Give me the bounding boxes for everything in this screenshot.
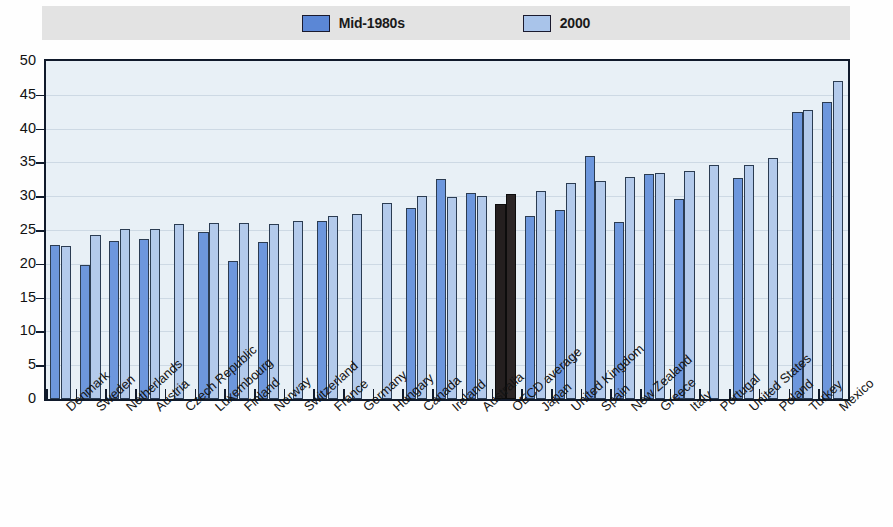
bar-mid1980s <box>436 179 446 399</box>
bar-2000 <box>447 197 457 399</box>
bar-mid1980s <box>495 204 505 399</box>
y-tick-label: 25 <box>4 221 36 237</box>
bar-2000 <box>417 196 427 399</box>
y-tick-mark <box>36 129 45 131</box>
bar-mid1980s <box>317 221 327 399</box>
y-tick-label: 45 <box>4 86 36 102</box>
bar-2000 <box>655 173 665 399</box>
y-tick-mark <box>36 95 45 97</box>
y-tick-label: 20 <box>4 255 36 271</box>
bar-mid1980s <box>50 245 60 399</box>
y-tick-label: 10 <box>4 322 36 338</box>
y-tick-label: 30 <box>4 187 36 203</box>
bar-mid1980s <box>198 232 208 399</box>
bar-mid1980s <box>406 208 416 399</box>
y-tick-label: 50 <box>4 52 36 68</box>
y-tick-label: 15 <box>4 289 36 305</box>
y-tick-label: 40 <box>4 120 36 136</box>
bar-2000 <box>293 221 303 399</box>
y-tick-mark <box>36 196 45 198</box>
bar-mid1980s <box>466 193 476 399</box>
bar-mid1980s <box>139 239 149 399</box>
bar-mid1980s <box>822 102 832 399</box>
bar-mid1980s <box>585 156 595 399</box>
bar-2000 <box>744 165 754 399</box>
bar-2000 <box>61 246 71 399</box>
y-tick-label: 35 <box>4 153 36 169</box>
bar-mid1980s <box>525 216 535 399</box>
y-tick-mark <box>36 264 45 266</box>
y-tick-mark <box>36 230 45 232</box>
bar-mid1980s <box>109 241 119 399</box>
bar-mid1980s <box>733 178 743 399</box>
x-tick-mark <box>46 389 48 400</box>
x-axis-labels: DenmarkSwedenNetherlandsAustriaCzech Rep… <box>0 401 893 527</box>
y-tick-mark <box>36 365 45 367</box>
bar-2000 <box>382 203 392 399</box>
bar-2000 <box>506 194 516 400</box>
bar-2000 <box>477 196 487 399</box>
bar-2000 <box>709 165 719 399</box>
bar-2000 <box>595 181 605 399</box>
bar-2000 <box>536 191 546 399</box>
y-tick-mark <box>36 298 45 300</box>
y-tick-label: 5 <box>4 356 36 372</box>
bar-mid1980s <box>644 174 654 399</box>
bar-2000 <box>269 224 279 399</box>
y-tick-mark <box>36 162 45 164</box>
bar-2000 <box>833 81 843 399</box>
bar-2000 <box>768 158 778 399</box>
y-tick-mark <box>36 331 45 333</box>
chart-root: Mid-1980s 2000 05101520253035404550 Denm… <box>0 0 893 527</box>
bars-layer <box>46 61 848 399</box>
